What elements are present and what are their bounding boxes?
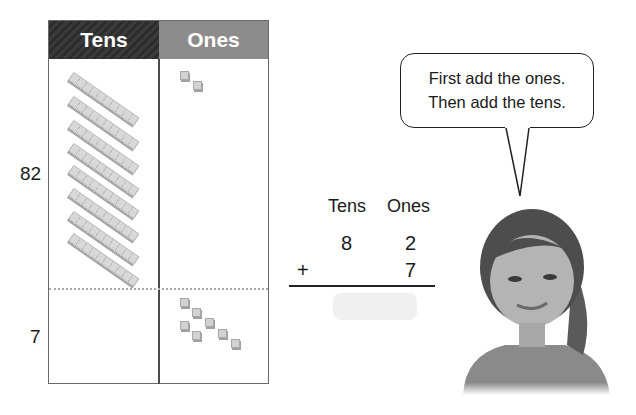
ones-header: Ones (159, 21, 268, 59)
ones-cube (205, 318, 214, 327)
row-divider-dotted (49, 288, 268, 290)
speech-line-1: First add the ones. (401, 66, 593, 90)
ones-cube (180, 71, 189, 80)
top-tens-digit: 8 (341, 232, 352, 255)
bottom-ones-digit: 7 (405, 259, 416, 282)
speech-bubble: First add the ones. Then add the tens. (400, 53, 594, 128)
top-ones-digit: 2 (405, 232, 416, 255)
speech-bubble-tail (505, 126, 535, 198)
tens-header: Tens (49, 21, 159, 59)
girl-photo (455, 205, 615, 395)
ones-cube (218, 329, 227, 338)
ones-cube (180, 298, 189, 307)
column-header-ones: Ones (387, 196, 430, 217)
speech-line-2: Then add the tens. (401, 90, 593, 114)
column-divider (158, 59, 160, 384)
ones-cube (192, 308, 201, 317)
plus-sign: + (297, 259, 309, 282)
sum-line (289, 285, 435, 287)
ones-cube (180, 321, 189, 330)
row-label-82: 82 (20, 163, 41, 185)
answer-box[interactable] (333, 293, 417, 320)
ones-cube (231, 339, 240, 348)
row-label-7: 7 (30, 326, 41, 348)
column-header-tens: Tens (328, 196, 366, 217)
ones-cube (192, 331, 201, 340)
place-value-mat: Tens Ones (48, 20, 269, 384)
ones-cube (193, 81, 202, 90)
